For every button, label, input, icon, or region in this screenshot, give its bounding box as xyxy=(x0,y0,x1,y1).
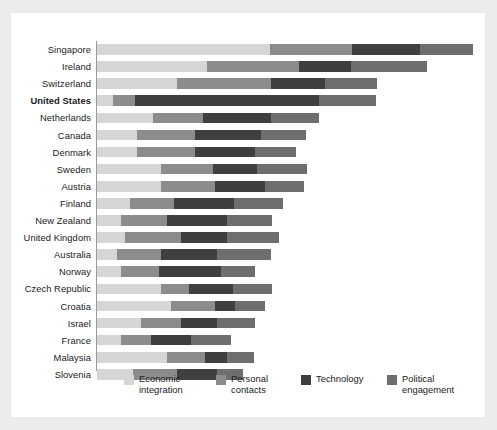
bar-segment-technology xyxy=(151,335,191,346)
bar-segment-technology xyxy=(189,284,233,295)
bar-segment-political-engagement xyxy=(217,318,255,329)
bar-segment-economic-integration xyxy=(97,44,270,55)
bar-segment-political-engagement xyxy=(261,130,306,141)
stacked-bar xyxy=(97,130,485,141)
category-label: Croatia xyxy=(11,298,91,315)
bar-segment-personal-contacts xyxy=(161,181,215,192)
bar-row: New Zealand xyxy=(11,212,485,229)
chart-card: SingaporeIrelandSwitzerlandUnited States… xyxy=(11,13,485,417)
bar-row: Canada xyxy=(11,127,485,144)
stacked-bar xyxy=(97,352,485,363)
bar-segment-technology xyxy=(167,215,227,226)
stacked-bar xyxy=(97,215,485,226)
legend-swatch-icon xyxy=(301,375,311,385)
bar-segment-personal-contacts xyxy=(167,352,205,363)
bar-segment-personal-contacts xyxy=(117,249,161,260)
bar-segment-technology xyxy=(215,181,265,192)
bar-row: United States xyxy=(11,92,485,109)
stacked-bar xyxy=(97,61,485,72)
bar-segment-political-engagement xyxy=(227,232,279,243)
bar-segment-economic-integration xyxy=(97,352,167,363)
category-label: Sweden xyxy=(11,161,91,178)
bar-segment-economic-integration xyxy=(97,249,117,260)
bar-segment-personal-contacts xyxy=(161,284,189,295)
bar-segment-political-engagement xyxy=(271,113,319,124)
bar-segment-economic-integration xyxy=(97,78,177,89)
bar-segment-economic-integration xyxy=(97,266,121,277)
bar-segment-political-engagement xyxy=(235,301,265,312)
category-label: Switzerland xyxy=(11,75,91,92)
legend-swatch-icon xyxy=(124,375,134,385)
stacked-bar xyxy=(97,232,485,243)
bar-segment-personal-contacts xyxy=(121,335,151,346)
stacked-bar xyxy=(97,198,485,209)
bar-segment-technology xyxy=(181,318,217,329)
bar-segment-technology xyxy=(205,352,227,363)
bar-segment-political-engagement xyxy=(233,284,272,295)
bar-segment-political-engagement xyxy=(420,44,473,55)
bar-segment-political-engagement xyxy=(217,249,271,260)
legend-item[interactable]: Technology xyxy=(301,373,363,385)
bar-row: Ireland xyxy=(11,58,485,75)
bar-segment-technology xyxy=(352,44,420,55)
category-label: Norway xyxy=(11,263,91,280)
bar-segment-technology xyxy=(195,130,261,141)
bar-row: United Kingdom xyxy=(11,229,485,246)
bar-segment-political-engagement xyxy=(234,198,283,209)
bar-segment-personal-contacts xyxy=(161,164,213,175)
legend-label: Personal contacts xyxy=(231,373,268,396)
bar-segment-technology xyxy=(135,95,319,106)
category-label: France xyxy=(11,332,91,349)
bar-segment-technology xyxy=(181,232,227,243)
bar-segment-technology xyxy=(271,78,325,89)
bar-row: Austria xyxy=(11,178,485,195)
legend-label: Political engagement xyxy=(402,373,454,396)
bar-segment-personal-contacts xyxy=(270,44,352,55)
stacked-bar xyxy=(97,147,485,158)
bar-row: Malaysia xyxy=(11,349,485,366)
bar-segment-political-engagement xyxy=(319,95,376,106)
stacked-bar xyxy=(97,164,485,175)
stacked-bar xyxy=(97,44,485,55)
bar-segment-personal-contacts xyxy=(121,266,159,277)
bar-segment-economic-integration xyxy=(97,301,171,312)
bar-segment-technology xyxy=(203,113,271,124)
bar-segment-personal-contacts xyxy=(171,301,215,312)
bar-segment-technology xyxy=(299,61,351,72)
bar-segment-political-engagement xyxy=(221,266,255,277)
category-label: Malaysia xyxy=(11,349,91,366)
legend-swatch-icon xyxy=(387,375,397,385)
bar-segment-technology xyxy=(161,249,217,260)
legend-item[interactable]: Economic integration xyxy=(124,373,183,396)
bar-segment-political-engagement xyxy=(227,352,254,363)
category-label: United Kingdom xyxy=(11,229,91,246)
stacked-bar xyxy=(97,266,485,277)
category-label: Austria xyxy=(11,178,91,195)
bar-segment-political-engagement xyxy=(257,164,307,175)
bar-segment-personal-contacts xyxy=(137,147,195,158)
category-label: Singapore xyxy=(11,41,91,58)
legend-item[interactable]: Political engagement xyxy=(387,373,454,396)
stacked-bar xyxy=(97,181,485,192)
category-label: Netherlands xyxy=(11,109,91,126)
bar-segment-economic-integration xyxy=(97,318,141,329)
bar-segment-economic-integration xyxy=(97,284,161,295)
bar-segment-technology xyxy=(213,164,257,175)
bar-segment-economic-integration xyxy=(97,61,207,72)
bar-row: Denmark xyxy=(11,144,485,161)
legend-label: Economic integration xyxy=(139,373,183,396)
category-label: United States xyxy=(11,92,91,109)
stacked-bar xyxy=(97,249,485,260)
bar-segment-personal-contacts xyxy=(130,198,174,209)
category-label: Denmark xyxy=(11,144,91,161)
stacked-bar xyxy=(97,78,485,89)
bar-segment-personal-contacts xyxy=(207,61,299,72)
bar-segment-personal-contacts xyxy=(153,113,203,124)
category-label: Finland xyxy=(11,195,91,212)
bar-segment-technology xyxy=(215,301,235,312)
legend-item[interactable]: Personal contacts xyxy=(216,373,268,396)
category-label: Canada xyxy=(11,127,91,144)
bar-segment-political-engagement xyxy=(265,181,304,192)
bar-segment-technology xyxy=(174,198,234,209)
bar-row: Netherlands xyxy=(11,109,485,126)
